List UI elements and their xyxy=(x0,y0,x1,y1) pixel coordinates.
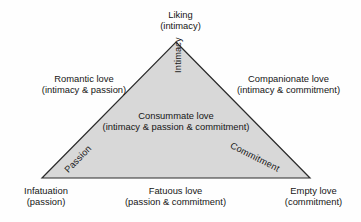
edge-companionate-name: Companionate love xyxy=(216,73,361,84)
vertex-infatuation-component: (passion) xyxy=(0,196,92,207)
triangular-theory-of-love-diagram: Liking (intimacy) Romantic love (intimac… xyxy=(0,0,361,222)
side-label-intimacy: Intimacy xyxy=(173,32,183,78)
vertex-label-infatuation: Infatuation (passion) xyxy=(0,185,92,207)
vertex-label-liking: Liking (intimacy) xyxy=(0,9,361,31)
edge-romantic-component: (intimacy & passion) xyxy=(22,84,146,95)
vertex-label-empty-love: Empty love (commitment) xyxy=(266,185,361,207)
edge-label-fatuous-love: Fatuous love (passion & commitment) xyxy=(104,185,247,207)
vertex-empty-component: (commitment) xyxy=(266,196,361,207)
center-consummate-component: (intimacy & passion & commitment) xyxy=(86,121,266,132)
edge-label-companionate-love: Companionate love (intimacy & commitment… xyxy=(216,73,361,95)
center-consummate-name: Consummate love xyxy=(86,110,266,121)
edge-fatuous-name: Fatuous love xyxy=(104,185,247,196)
edge-romantic-name: Romantic love xyxy=(22,73,146,84)
vertex-empty-name: Empty love xyxy=(266,185,361,196)
vertex-liking-component: (intimacy) xyxy=(0,20,361,31)
edge-companionate-component: (intimacy & commitment) xyxy=(216,84,361,95)
vertex-infatuation-name: Infatuation xyxy=(0,185,92,196)
edge-fatuous-component: (passion & commitment) xyxy=(104,196,247,207)
center-label-consummate-love: Consummate love (intimacy & passion & co… xyxy=(86,110,266,132)
edge-label-romantic-love: Romantic love (intimacy & passion) xyxy=(22,73,146,95)
vertex-liking-name: Liking xyxy=(0,9,361,20)
